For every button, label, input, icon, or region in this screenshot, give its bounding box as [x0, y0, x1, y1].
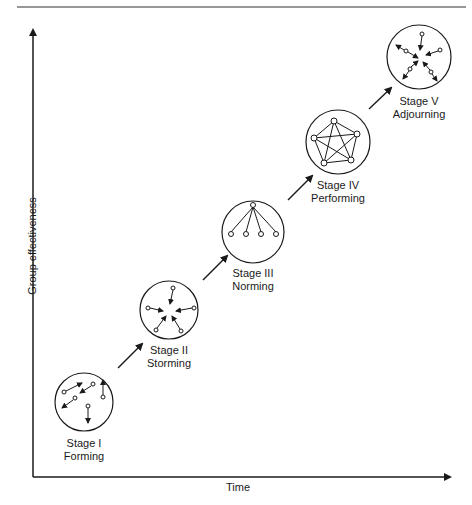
stage-2-storming-circle [140, 281, 198, 339]
stage-4-label: Stage IV Performing [293, 179, 383, 205]
stage-4-number: Stage IV [293, 179, 383, 192]
stage-1-forming-circle [55, 373, 113, 431]
x-axis-label: Time [226, 481, 250, 493]
stage-3-label: Stage III Norming [208, 267, 298, 293]
y-axis-label: Group effectiveness [26, 186, 38, 306]
stage-5-number: Stage V [374, 95, 464, 108]
stage-4-name: Performing [293, 192, 383, 205]
stage-4-performing-circle [306, 110, 370, 174]
stage-3-name: Norming [208, 280, 298, 293]
stage-5-name: Adjourning [374, 108, 464, 121]
stage-2-label: Stage II Storming [124, 344, 214, 370]
stage-2-name: Storming [124, 357, 214, 370]
stage-5-adjourning-circle [387, 25, 451, 89]
tuckman-stages-diagram [0, 0, 472, 505]
stage-5-label: Stage V Adjourning [374, 95, 464, 121]
stage-1-label: Stage I Forming [39, 437, 129, 463]
stage-1-name: Forming [39, 450, 129, 463]
stage-1-number: Stage I [39, 437, 129, 450]
stage-3-norming-circle [222, 201, 284, 263]
stage-2-number: Stage II [124, 344, 214, 357]
stage-3-number: Stage III [208, 267, 298, 280]
